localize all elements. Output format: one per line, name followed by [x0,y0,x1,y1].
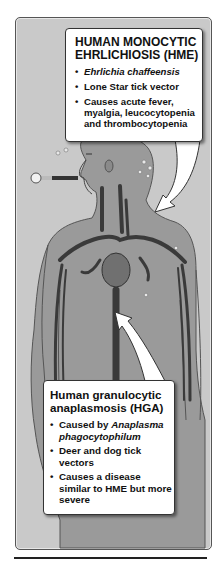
hme-bullet-list: •Ehrlichia chaffeensis •Lone Star tick v… [66,62,202,129]
hga-vector-text: Deer and dog tick vectors [59,445,141,468]
bottom-divider [14,557,207,559]
hga-title: Human granulocytic anaplasmosis (HGA) [44,381,174,414]
hga-severity-text: Causes a disease similar to HME but more… [59,471,172,505]
bullet-icon: • [50,419,53,431]
hme-pointer-arrow [155,140,200,212]
hga-pathogen-prefix: Caused by [59,419,111,430]
hme-bullet-symptoms: •Causes acute fever, myalgia, leucocytop… [75,96,202,129]
bullet-icon: • [75,96,78,107]
hme-title-line2: EHRLICHIOSIS (HME) [75,48,198,62]
heart-icon [102,253,130,287]
hme-vector-text: Lone Star tick vector [84,81,179,92]
bullet-icon: • [50,471,53,483]
hme-title-line1: HUMAN MONOCYTIC [75,35,196,49]
bullet-icon: • [75,66,78,77]
thermometer-icon [31,173,78,183]
bullet-icon: • [50,445,53,457]
hga-bullet-list: •Caused by Anaplasma phagocytophilum •De… [44,414,174,506]
hme-bullet-vector: •Lone Star tick vector [75,81,202,92]
hga-bullet-severity: •Causes a disease similar to HME but mor… [50,471,174,506]
hme-bullet-pathogen: •Ehrlichia chaffeensis [75,66,202,77]
bullet-icon: • [75,81,78,92]
hga-title-line1: Human granulocytic [50,388,161,401]
hme-callout: HUMAN MONOCYTIC EHRLICHIOSIS (HME) •Ehrl… [65,28,203,142]
hga-callout: Human granulocytic anaplasmosis (HGA) •C… [43,380,175,515]
hga-title-line2: anaplasmosis (HGA) [50,401,163,414]
ear [105,160,113,172]
hga-bullet-pathogen: •Caused by Anaplasma phagocytophilum [50,419,174,442]
hme-title: HUMAN MONOCYTIC EHRLICHIOSIS (HME) [66,29,202,62]
hga-bullet-vector: •Deer and dog tick vectors [50,445,174,468]
hme-symptoms-text: Causes acute fever, myalgia, leucocytope… [84,96,195,129]
hme-pathogen-name: Ehrlichia chaffeensis [84,66,180,77]
